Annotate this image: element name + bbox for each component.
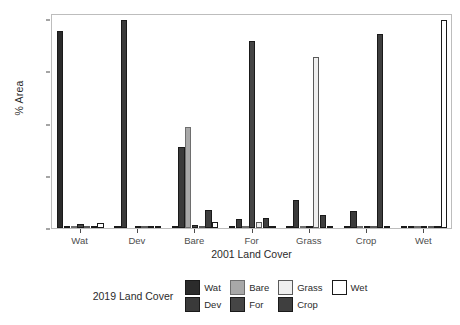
x-tick-mark: [423, 229, 424, 233]
x-tick-label: Bare: [184, 235, 204, 246]
bar: [256, 222, 262, 228]
bar: [306, 226, 312, 228]
legend-label: Wat: [204, 282, 221, 293]
legend-label: For: [249, 299, 263, 310]
bar: [320, 215, 326, 228]
bar: [401, 226, 407, 228]
bar: [344, 226, 350, 228]
legend-item-for: For: [230, 297, 269, 312]
bar: [300, 226, 306, 228]
bar: [84, 226, 90, 228]
legend-label: Crop: [297, 299, 318, 310]
bar: [172, 226, 178, 228]
bar: [199, 226, 205, 228]
legend-swatch-crop: [278, 297, 293, 312]
x-tick-label: Wat: [71, 235, 88, 246]
y-tick-mark: [46, 20, 50, 21]
legend-item-dev: Dev: [185, 297, 221, 312]
y-axis-title: % Area: [13, 53, 25, 143]
land-cover-change-chart: % Area 0255075100 WatDevBareForGrassCrop…: [0, 0, 460, 325]
bar: [263, 218, 269, 228]
bar: [313, 57, 319, 228]
legend-item-grass: Grass: [278, 280, 322, 295]
bar: [178, 147, 184, 228]
plot-panel: [51, 14, 452, 229]
y-tick-mark: [46, 176, 50, 177]
bar: [77, 224, 83, 228]
bar: [97, 223, 103, 228]
bar: [327, 226, 333, 228]
legend-swatch-wet: [332, 280, 347, 295]
bar: [293, 200, 299, 228]
legend-title: 2019 Land Cover: [93, 290, 174, 302]
legend-item-bare: Bare: [230, 280, 269, 295]
x-tick-label: Crop: [356, 235, 377, 246]
bar: [229, 226, 235, 228]
bar: [57, 31, 63, 228]
legend-items: WatBareGrassWetDevForCrop: [185, 280, 367, 313]
bar: [357, 226, 363, 228]
bar: [205, 210, 211, 228]
x-axis-title: 2001 Land Cover: [51, 248, 452, 260]
bar: [428, 226, 434, 228]
bar: [364, 226, 370, 228]
bar: [236, 219, 242, 228]
legend-label: Grass: [297, 282, 322, 293]
bar: [71, 226, 77, 228]
x-tick-label: Wet: [415, 235, 432, 246]
bar: [148, 226, 154, 228]
bar: [377, 34, 383, 228]
legend-swatch-dev: [185, 297, 200, 312]
bar: [286, 226, 292, 228]
bar: [249, 41, 255, 228]
x-tick-label: Dev: [128, 235, 145, 246]
bar: [242, 226, 248, 228]
legend-item-crop: Crop: [278, 297, 322, 312]
bar: [155, 226, 161, 228]
y-tick-mark: [46, 72, 50, 73]
bar: [269, 226, 275, 228]
legend-item-wat: Wat: [185, 280, 221, 295]
x-tick-mark: [80, 229, 81, 233]
bar: [185, 127, 191, 228]
legend-label: Bare: [249, 282, 269, 293]
legend-swatch-grass: [278, 280, 293, 295]
x-tick-mark: [252, 229, 253, 233]
y-tick-mark: [46, 229, 50, 230]
y-tick-mark: [46, 124, 50, 125]
bar: [414, 226, 420, 228]
chart-legend: 2019 Land Cover WatBareGrassWetDevForCro…: [0, 272, 460, 320]
bar: [212, 222, 218, 228]
x-tick-mark: [194, 229, 195, 233]
bar: [91, 226, 97, 228]
bar: [441, 20, 447, 228]
bar: [192, 225, 198, 228]
x-tick-mark: [366, 229, 367, 233]
x-tick-label: For: [244, 235, 258, 246]
bar: [121, 20, 127, 228]
legend-label: Dev: [204, 299, 221, 310]
bar: [434, 226, 440, 228]
plot-area: [52, 15, 451, 228]
legend-swatch-bare: [230, 280, 245, 295]
bar: [370, 226, 376, 228]
bar: [64, 226, 70, 228]
bar: [114, 226, 120, 228]
legend-swatch-wat: [185, 280, 200, 295]
legend-swatch-for: [230, 297, 245, 312]
legend-item-wet: Wet: [332, 280, 368, 295]
bar: [350, 211, 356, 228]
bar: [141, 226, 147, 228]
legend-label: Wet: [351, 282, 368, 293]
x-tick-mark: [309, 229, 310, 233]
bar: [384, 226, 390, 228]
x-tick-mark: [137, 229, 138, 233]
bar: [408, 226, 414, 228]
x-tick-label: Grass: [296, 235, 321, 246]
bar: [421, 226, 427, 228]
bar: [135, 226, 141, 228]
